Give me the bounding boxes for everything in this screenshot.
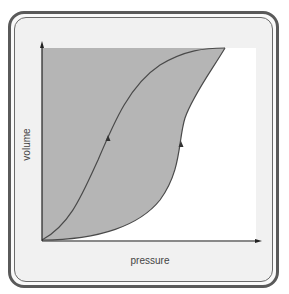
pressure-volume-diagram (0, 0, 289, 294)
x-axis-arrow-icon (255, 239, 262, 243)
x-axis-label: pressure (120, 255, 180, 266)
y-axis-arrow-icon (40, 41, 44, 48)
y-axis-label: volume (21, 127, 32, 163)
